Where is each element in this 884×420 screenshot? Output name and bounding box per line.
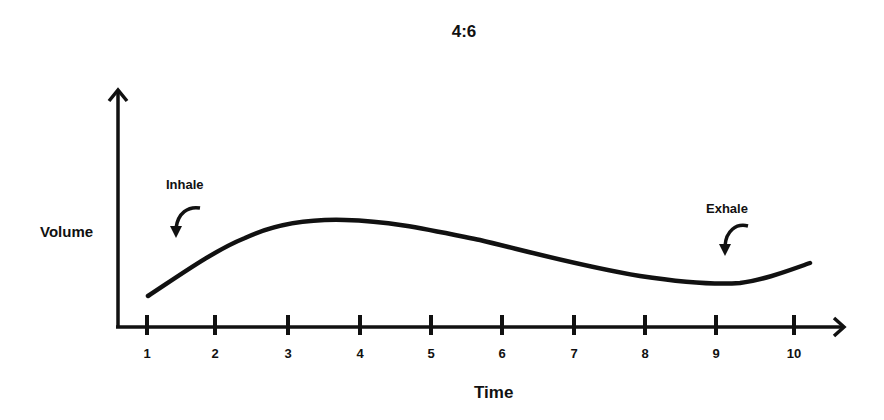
x-tick-label: 5 [427, 346, 434, 361]
x-axis [116, 318, 844, 336]
x-tick-label: 3 [284, 346, 291, 361]
breathing-chart: 12345678910 Volume Time Inhale Exhale [0, 0, 884, 420]
x-tick-label: 2 [211, 346, 218, 361]
x-axis-tick-labels: 12345678910 [143, 346, 801, 361]
x-axis-ticks [147, 315, 794, 335]
x-tick-label: 7 [570, 346, 577, 361]
inhale-label: Inhale [166, 177, 204, 192]
x-axis-label: Time [474, 383, 513, 402]
x-tick-label: 8 [641, 346, 648, 361]
exhale-label: Exhale [706, 201, 748, 216]
x-tick-label: 1 [143, 346, 150, 361]
x-tick-label: 10 [787, 346, 801, 361]
x-tick-label: 9 [712, 346, 719, 361]
exhale-arrow-icon [719, 225, 748, 256]
x-tick-label: 4 [356, 346, 364, 361]
y-axis [109, 90, 127, 328]
x-tick-label: 6 [498, 346, 505, 361]
volume-curve [148, 220, 810, 296]
inhale-arrow-icon [170, 208, 200, 238]
y-axis-label: Volume [40, 223, 93, 240]
